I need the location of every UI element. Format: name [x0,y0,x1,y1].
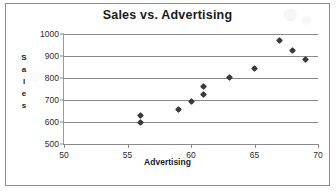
y-axis-title-letter: l [18,76,30,88]
data-point [251,65,258,72]
data-point [137,118,144,125]
x-tick-mark [255,144,256,148]
y-axis-title-letter: e [18,88,30,100]
y-tick-label: 900 [45,51,59,61]
screenshot-root: Sales vs. Advertising Sales 500600700800… [0,0,336,191]
plot-area: 5006007008009001000 5055606570 [64,34,318,144]
y-axis-line [63,34,64,144]
y-tick-label: 600 [45,117,59,127]
x-axis-title: Advertising [6,157,329,167]
x-tick-mark [191,144,192,148]
data-point [187,98,194,105]
x-tick-mark [64,144,65,148]
y-tick-mark [60,78,64,79]
data-point [200,83,207,90]
data-point [226,74,233,81]
y-tick-mark [60,34,64,35]
y-axis-title: Sales [18,52,30,112]
y-tick-mark [60,56,64,57]
y-tick-label: 700 [45,95,59,105]
chart-title: Sales vs. Advertising [6,8,329,22]
gridline [64,34,318,35]
y-tick-label: 1000 [40,29,59,39]
y-axis-title-letter: a [18,64,30,76]
y-axis-title-letter: s [18,100,30,112]
gridline [64,78,318,79]
y-tick-mark [60,100,64,101]
y-tick-label: 800 [45,73,59,83]
y-axis-title-letter: S [18,52,30,64]
data-point [137,112,144,119]
gridline [64,122,318,123]
x-tick-mark [128,144,129,148]
y-tick-label: 500 [45,139,59,149]
x-tick-mark [318,144,319,148]
y-tick-mark [60,122,64,123]
chart-frame: Sales vs. Advertising Sales 500600700800… [5,3,330,186]
data-point [200,91,207,98]
data-point [276,37,283,44]
gridline [64,56,318,57]
data-point [175,106,182,113]
data-point [289,47,296,54]
